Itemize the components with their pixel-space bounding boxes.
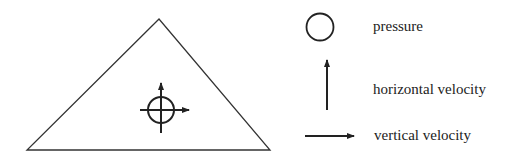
circle-icon [307,14,334,41]
diagram-canvas: pressure horizontal velocity vertical ve… [0,0,530,156]
legend-label-pressure: pressure [373,19,423,34]
legend-icons [305,14,354,137]
triangle-element [27,19,270,150]
node-symbol [140,83,189,133]
legend-label-horizontal-velocity: horizontal velocity [373,82,486,97]
legend-label-vertical-velocity: vertical velocity [374,128,471,143]
